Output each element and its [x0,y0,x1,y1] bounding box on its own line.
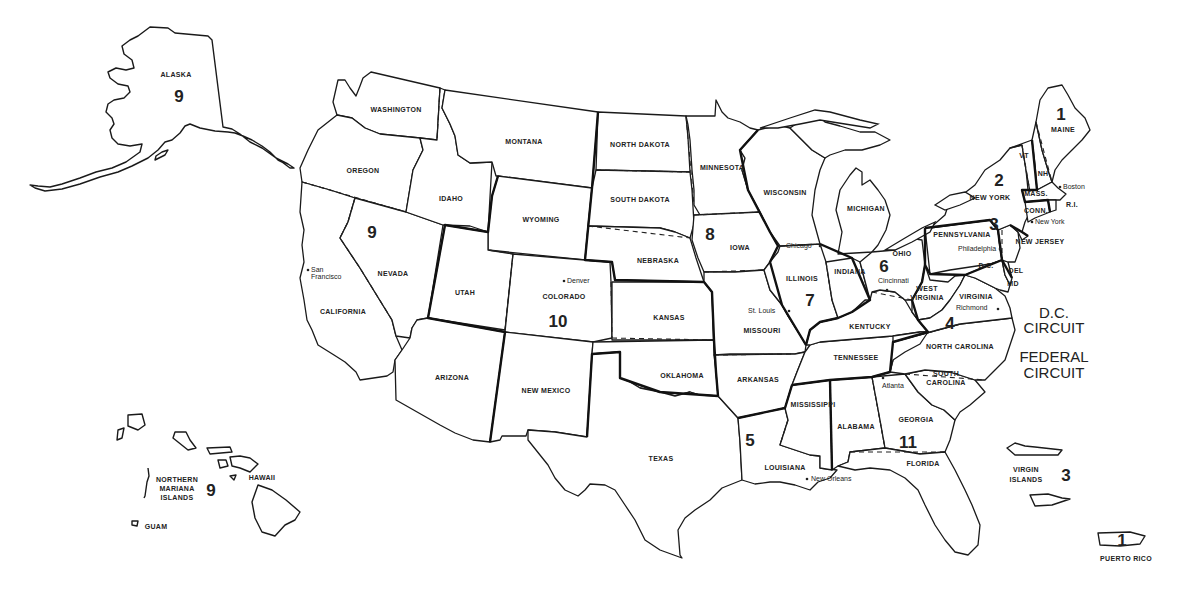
contiguous-us [300,72,1090,558]
label-maryland: MD [1007,280,1019,287]
label-montana: MONTANA [505,138,542,145]
label-illinois: ILLINOIS [786,275,818,282]
federal-circuit-line-2: CIRCUIT [1024,364,1085,381]
label-west-virginia-2: VIRGINIA [910,294,944,301]
label-colorado: COLORADO [542,293,585,300]
label-iowa: IOWA [730,244,750,251]
maui [230,456,258,472]
circuit-map: ALASKA WASHINGTON OREGON CALIFORNIA NEVA… [0,0,1183,590]
label-guam: GUAM [145,523,168,530]
guam-shape [132,521,138,526]
circuit-4: 4 [945,314,955,333]
alaska-shape [30,27,294,191]
dc-circuit-line-2: CIRCUIT [1024,319,1085,336]
federal-circuit-line-1: FEDERAL [1019,348,1088,365]
label-massachusetts: MASS. [1024,190,1048,197]
mariana-chain [144,468,149,498]
kauai [128,414,145,430]
label-hawaii: HAWAII [249,474,276,481]
label-virgin-islands-2: ISLANDS [1010,476,1043,483]
circuit-8: 8 [705,225,714,244]
city-st-louis: St. Louis [748,307,776,314]
label-wisconsin: WISCONSIN [763,189,806,196]
label-mississippi: MISSISSIPPI [791,401,836,408]
city-boston: Boston [1063,183,1085,190]
kansas-shape [612,282,714,340]
label-northern-mariana-1: NORTHERN [156,476,198,483]
label-kentucky: KENTUCKY [849,323,890,330]
label-virgin-islands-1: VIRGIN [1013,466,1039,473]
label-texas: TEXAS [649,455,674,462]
label-new-jersey: NEW JERSEY [1016,238,1065,245]
label-south-carolina-1: SOUTH [933,370,959,377]
label-idaho: IDAHO [439,195,463,202]
city-denver: Denver [567,277,590,284]
label-west-virginia-1: WEST [916,285,938,292]
label-missouri: MISSOURI [743,327,780,334]
label-new-hampshire: NH [1038,170,1049,177]
label-utah: UTAH [455,289,475,296]
city-chicago: Chicago [786,242,812,250]
label-oklahoma: OKLAHOMA [660,372,704,379]
label-california: CALIFORNIA [320,308,366,315]
label-arizona: ARIZONA [435,374,469,381]
label-alabama: ALABAMA [837,423,874,430]
lanai [218,460,228,468]
label-rhode-island: R.I. [1066,201,1078,208]
label-new-mexico: NEW MEXICO [522,387,571,394]
label-wyoming: WYOMING [522,216,559,223]
circuit-5: 5 [745,431,754,450]
circuit-6: 6 [879,257,888,276]
label-puerto-rico: PUERTO RICO [1100,555,1152,562]
label-georgia: GEORGIA [898,416,933,423]
label-north-dakota: NORTH DAKOTA [610,141,670,148]
label-nevada: NEVADA [378,270,409,277]
city-san-francisco-1: San [311,266,324,273]
label-nebraska: NEBRASKA [637,257,679,264]
city-atlanta: Atlanta [882,382,904,389]
label-northern-mariana-2: MARIANA [159,485,194,492]
city-philadelphia: Philadelphia [958,245,996,253]
label-florida: FLORIDA [906,460,939,467]
label-pennsylvania: PENNSYLVANIA [933,231,990,238]
label-tennessee: TENNESSEE [833,354,878,361]
label-dc: D.C. [978,262,993,269]
label-virginia: VIRGINIA [959,293,993,300]
virgin-islands-shape [1007,443,1062,455]
label-alaska: ALASKA [161,71,192,78]
niihau [117,428,124,440]
label-south-carolina-2: CAROLINA [926,379,965,386]
big-island [252,485,300,536]
label-louisiana: LOUISIANA [764,464,805,471]
circuit-1-puerto-rico: 1 [1117,531,1126,550]
label-minnesota: MINNESOTA [700,164,744,171]
circuit-11: 11 [899,433,917,452]
label-oregon: OREGON [347,167,380,174]
label-maine: MAINE [1051,126,1075,133]
label-vermont: VT [1019,152,1029,159]
label-northern-mariana-3: ISLANDS [161,494,194,501]
city-richmond: Richmond [956,304,988,311]
circuit-3-virgin-islands: 3 [1061,466,1070,485]
city-san-francisco-2: Francisco [311,273,341,280]
circuit-10: 10 [549,312,568,331]
circuit-1: 1 [1056,105,1065,124]
circuit-3: 3 [989,215,998,234]
molokai [207,447,232,454]
city-new-york: New York [1035,218,1065,225]
circuit-7: 7 [805,291,814,310]
label-new-york: NEW YORK [970,194,1011,201]
label-north-carolina: NORTH CAROLINA [926,343,994,350]
label-ohio: OHIO [892,250,911,257]
label-michigan: MICHIGAN [847,205,885,212]
circuit-9-pacific: 9 [206,481,215,500]
label-south-dakota: SOUTH DAKOTA [610,196,669,203]
alaska-region [30,27,294,191]
circuit-9-alaska: 9 [174,87,183,106]
label-washington: WASHINGTON [370,106,421,113]
circuit-2: 2 [994,171,1003,190]
oahu [173,432,196,450]
circuit-9-west: 9 [367,223,376,242]
label-indiana: INDIANA [834,268,865,275]
label-arkansas: ARKANSAS [737,376,779,383]
